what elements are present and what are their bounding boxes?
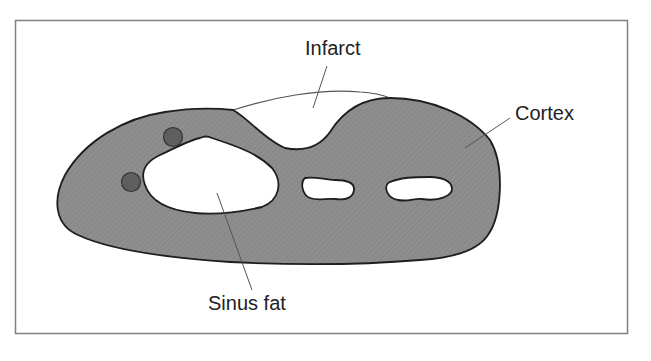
sinus-fat-label: Sinus fat <box>208 293 286 313</box>
kidney-infarct-diagram: Infarct Cortex Sinus fat <box>0 0 651 361</box>
vessel-lower <box>122 173 141 192</box>
infarct-label: Infarct <box>305 38 361 58</box>
cortex-label: Cortex <box>515 103 574 123</box>
vessel-upper <box>164 128 183 147</box>
